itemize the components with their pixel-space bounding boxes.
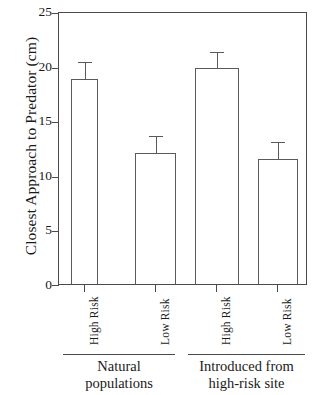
group-label-2-line2: high-risk site bbox=[188, 375, 305, 392]
y-tick-15 bbox=[52, 122, 59, 123]
group-bracket-1 bbox=[63, 354, 175, 355]
group-label-1-line2: populations bbox=[63, 375, 175, 392]
x-label-bar-1: High Risk bbox=[88, 296, 100, 345]
x-label-bar-2: Low Risk bbox=[159, 298, 171, 345]
bar-4-low-risk-introduced bbox=[258, 159, 298, 285]
error-bar-cap-4 bbox=[271, 142, 285, 143]
x-tick-2 bbox=[155, 285, 156, 292]
bar-3-high-risk-introduced bbox=[195, 68, 239, 285]
y-tick-20 bbox=[52, 68, 59, 69]
y-tick-label-20: 20 bbox=[28, 60, 52, 74]
x-tick-1 bbox=[84, 285, 85, 292]
y-axis-title: Closest Approach to Predator (cm) bbox=[18, 11, 44, 281]
error-bar-line-3 bbox=[217, 52, 218, 68]
y-tick-0 bbox=[52, 285, 59, 286]
y-tick-label-0: 0 bbox=[28, 278, 52, 292]
y-tick-25 bbox=[52, 13, 59, 14]
error-bar-cap-2 bbox=[149, 136, 163, 137]
group-label-1: Natural populations bbox=[63, 358, 175, 391]
x-label-bar-3: High Risk bbox=[220, 296, 232, 345]
y-tick-label-5: 5 bbox=[28, 224, 52, 238]
y-tick-label-10: 10 bbox=[28, 169, 52, 183]
y-tick-label-15: 15 bbox=[28, 114, 52, 128]
error-bar-cap-1 bbox=[78, 62, 92, 63]
error-bar-line-4 bbox=[278, 142, 279, 159]
group-label-1-line1: Natural bbox=[63, 358, 175, 375]
y-tick-10 bbox=[52, 177, 59, 178]
group-bracket-2 bbox=[188, 354, 305, 355]
error-bar-line-1 bbox=[85, 62, 86, 79]
error-bar-line-2 bbox=[156, 136, 157, 153]
figure-bar-chart: Closest Approach to Predator (cm) 25 20 … bbox=[0, 0, 316, 395]
x-tick-4 bbox=[277, 285, 278, 292]
bar-1-high-risk-natural bbox=[71, 79, 98, 285]
plot-area bbox=[58, 12, 307, 285]
y-tick-5 bbox=[52, 231, 59, 232]
group-label-2-line1: Introduced from bbox=[188, 358, 305, 375]
plot-canvas bbox=[59, 13, 306, 284]
error-bar-cap-3 bbox=[210, 52, 224, 53]
x-tick-3 bbox=[216, 285, 217, 292]
y-tick-label-25: 25 bbox=[28, 5, 52, 19]
bar-2-low-risk-natural bbox=[135, 153, 176, 285]
group-label-2: Introduced from high-risk site bbox=[188, 358, 305, 391]
x-label-bar-4: Low Risk bbox=[281, 298, 293, 345]
